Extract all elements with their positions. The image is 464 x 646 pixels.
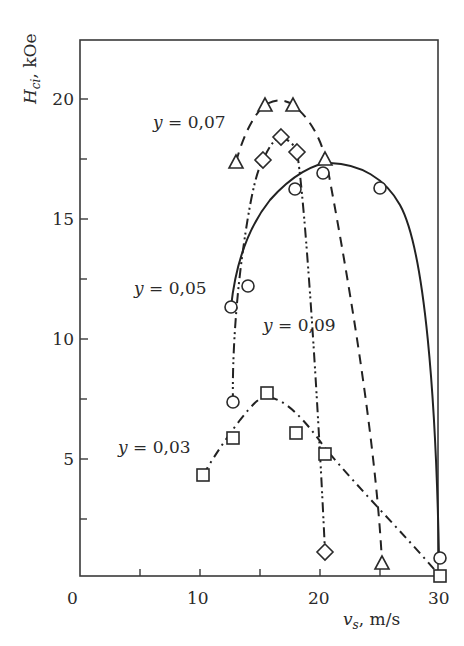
y-tick-label-20: 20 <box>52 89 74 109</box>
curve-y009 <box>233 137 325 552</box>
triangle-marker <box>318 152 332 165</box>
square-marker <box>261 387 273 399</box>
curve-y005 <box>231 163 439 558</box>
diamond-marker <box>289 144 305 160</box>
triangle-marker <box>286 98 300 111</box>
square-marker <box>227 432 239 444</box>
triangle-marker <box>375 556 389 569</box>
x-tick-label-30: 30 <box>428 588 450 608</box>
plot-frame <box>80 40 438 576</box>
circle-marker <box>225 301 237 313</box>
y-tick-label-15: 15 <box>52 209 74 229</box>
y-axis-ticks <box>80 99 88 519</box>
x-axis-label: vs, m/s <box>343 609 400 632</box>
circle-marker <box>434 552 446 564</box>
triangle-marker <box>229 155 243 168</box>
circle-marker <box>289 183 301 195</box>
circle-marker <box>374 182 386 194</box>
curve-label-y005: y = 0,05 <box>133 278 207 298</box>
curve-label-y003: y = 0,03 <box>117 437 191 457</box>
curve-label-y009: y = 0,09 <box>262 315 336 335</box>
square-marker <box>434 570 446 582</box>
diamond-marker <box>273 129 289 145</box>
x-tick-label-10: 10 <box>187 588 209 608</box>
x-tick-label-20: 20 <box>308 588 330 608</box>
circle-marker <box>242 280 254 292</box>
triangle-marker <box>258 98 272 111</box>
chart-figure: 0 10 20 30 5 10 15 20 vs, m/s Hci, kOe <box>0 0 464 646</box>
circle-marker <box>317 167 329 179</box>
x-axis-ticks <box>140 569 380 576</box>
curve-label-y007: y = 0,07 <box>152 112 226 132</box>
markers-y005 <box>225 167 446 564</box>
square-marker <box>290 427 302 439</box>
y-tick-label-10: 10 <box>52 329 74 349</box>
y-axis-label: Hci, kOe <box>20 34 43 106</box>
square-marker <box>319 448 331 460</box>
diamond-marker <box>255 152 271 168</box>
y-tick-label-5: 5 <box>63 449 74 469</box>
square-marker <box>197 469 209 481</box>
circle-marker <box>227 396 239 408</box>
diamond-marker <box>317 544 333 560</box>
x-tick-label-0: 0 <box>67 588 78 608</box>
